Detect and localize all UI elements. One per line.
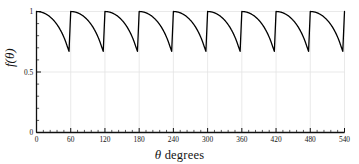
y-tick-label: 0 xyxy=(30,128,34,137)
series-line-f-theta xyxy=(37,12,345,52)
x-axis-label: θ degrees xyxy=(0,147,359,163)
x-tick-label: 300 xyxy=(202,135,213,144)
y-axis-label: f(θ) xyxy=(2,49,18,67)
gridlines xyxy=(37,12,345,133)
x-tick-label: 420 xyxy=(271,135,282,144)
x-tick-label: 120 xyxy=(99,135,110,144)
x-tick-label: 240 xyxy=(168,135,179,144)
chart-figure: 06012018024030036042048054000.51 θ degre… xyxy=(0,0,359,164)
y-tick-label: 1 xyxy=(30,7,34,16)
x-tick-label: 540 xyxy=(339,135,350,144)
x-tick-label: 360 xyxy=(236,135,247,144)
axis-tick-labels: 06012018024030036042048054000.51 xyxy=(24,7,350,144)
y-tick-label: 0.5 xyxy=(24,68,34,77)
data-series-curve xyxy=(37,12,345,52)
x-tick-label: 60 xyxy=(67,135,75,144)
x-tick-label: 180 xyxy=(134,135,145,144)
x-tick-label: 0 xyxy=(35,135,39,144)
x-tick-label: 480 xyxy=(305,135,316,144)
chart-plot-area: 06012018024030036042048054000.51 xyxy=(0,0,359,164)
x-axis-label-text: degrees xyxy=(161,148,204,162)
